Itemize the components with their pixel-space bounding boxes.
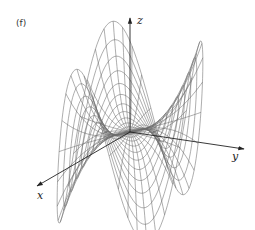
panel-label: (f) bbox=[16, 18, 26, 28]
coordinate-axes bbox=[37, 18, 244, 186]
z-axis-label: z bbox=[137, 14, 143, 27]
x-axis-label: x bbox=[37, 189, 43, 202]
y-axis-label: y bbox=[232, 150, 238, 163]
